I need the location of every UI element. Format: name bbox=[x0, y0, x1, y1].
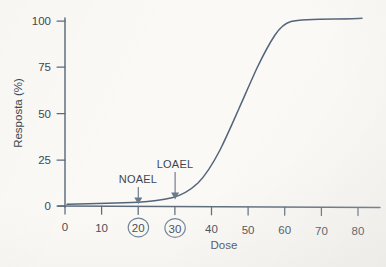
x-tick-label-30: 30 bbox=[169, 223, 182, 235]
y-tick-label-0: 0 bbox=[45, 200, 51, 212]
loael-label: LOAEL bbox=[157, 158, 193, 170]
x-tick-label-70: 70 bbox=[315, 225, 328, 237]
x-tick-label-0: 0 bbox=[62, 221, 68, 233]
x-tick-label-50: 50 bbox=[242, 224, 255, 236]
x-axis bbox=[58, 206, 380, 216]
y-tick-label-75: 75 bbox=[38, 61, 51, 73]
y-tick-label-50: 50 bbox=[38, 108, 51, 120]
y-axis bbox=[57, 18, 65, 207]
loael-annotation: LOAEL bbox=[157, 158, 193, 200]
x-tick-label-10: 10 bbox=[95, 222, 108, 234]
y-axis-title: Resposta (%) bbox=[12, 78, 24, 148]
dose-response-curve bbox=[67, 18, 362, 204]
noael-annotation: NOAEL bbox=[119, 173, 157, 204]
x-axis-title: Dose bbox=[211, 239, 238, 251]
chart-canvas: 100 75 50 25 0 Resposta (%) 0 10 20 30 4… bbox=[0, 0, 386, 267]
x-tick-label-60: 60 bbox=[278, 224, 291, 236]
noael-arrow-head bbox=[134, 198, 142, 205]
x-tick-label-80: 80 bbox=[352, 225, 365, 237]
dose-response-chart: 100 75 50 25 0 Resposta (%) 0 10 20 30 4… bbox=[0, 0, 386, 267]
x-tick-label-20: 20 bbox=[132, 222, 145, 234]
noael-label: NOAEL bbox=[119, 173, 157, 185]
y-tick-label-100: 100 bbox=[32, 15, 51, 27]
y-tick-label-25: 25 bbox=[38, 154, 51, 166]
x-tick-label-40: 40 bbox=[205, 223, 218, 235]
